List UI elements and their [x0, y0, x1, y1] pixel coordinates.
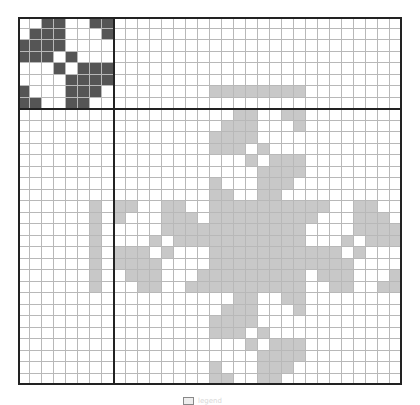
matrix-cell — [30, 305, 42, 317]
matrix-cell — [150, 374, 162, 386]
matrix-cell — [210, 52, 222, 64]
matrix-cell — [330, 40, 342, 52]
matrix-cell — [126, 40, 138, 52]
matrix-cell — [162, 270, 174, 282]
matrix-cell — [330, 167, 342, 179]
matrix-cell — [282, 305, 294, 317]
matrix-cell-light — [90, 213, 102, 225]
matrix-cell-light — [258, 236, 270, 248]
matrix-cell — [78, 109, 90, 121]
matrix-cell — [54, 213, 66, 225]
matrix-cell — [366, 29, 378, 41]
matrix-cell-light — [114, 247, 126, 259]
matrix-cell-light — [294, 282, 306, 294]
matrix-cell-light — [234, 213, 246, 225]
matrix-cell — [114, 109, 126, 121]
matrix-cell-light — [114, 201, 126, 213]
matrix-cell — [318, 155, 330, 167]
matrix-cell — [318, 17, 330, 29]
matrix-cell — [114, 144, 126, 156]
matrix-cell — [18, 224, 30, 236]
matrix-cell — [66, 316, 78, 328]
matrix-cell — [150, 40, 162, 52]
matrix-cell — [306, 52, 318, 64]
matrix-cell — [198, 75, 210, 87]
matrix-cell — [54, 190, 66, 202]
matrix-cell — [78, 178, 90, 190]
matrix-cell — [174, 155, 186, 167]
matrix-cell-light — [270, 178, 282, 190]
matrix-cell — [174, 86, 186, 98]
matrix-cell — [354, 362, 366, 374]
matrix-cell — [54, 339, 66, 351]
matrix-cell — [378, 29, 390, 41]
matrix-cell — [318, 316, 330, 328]
matrix-cell — [378, 144, 390, 156]
matrix-cell — [162, 305, 174, 317]
matrix-cell-light — [366, 201, 378, 213]
matrix-cell — [318, 224, 330, 236]
matrix-cell — [198, 155, 210, 167]
matrix-cell — [390, 86, 402, 98]
matrix-cell — [366, 109, 378, 121]
matrix-cell — [30, 167, 42, 179]
matrix-cell — [258, 52, 270, 64]
matrix-cell — [306, 63, 318, 75]
matrix-cell — [390, 201, 402, 213]
matrix-cell — [354, 190, 366, 202]
matrix-cell — [174, 144, 186, 156]
matrix-cell — [198, 167, 210, 179]
matrix-cell — [198, 109, 210, 121]
matrix-cell — [318, 167, 330, 179]
matrix-cell — [186, 362, 198, 374]
matrix-cell — [54, 362, 66, 374]
matrix-cell — [366, 178, 378, 190]
matrix-cell — [354, 293, 366, 305]
matrix-cell-light — [258, 351, 270, 363]
matrix-cell — [78, 259, 90, 271]
matrix-cell — [54, 224, 66, 236]
matrix-cell — [270, 328, 282, 340]
matrix-cell-light — [162, 224, 174, 236]
matrix-cell-dark — [18, 52, 30, 64]
matrix-cell — [42, 293, 54, 305]
matrix-cell — [354, 316, 366, 328]
matrix-cell — [270, 52, 282, 64]
matrix-cell-dark — [90, 86, 102, 98]
matrix-cell — [42, 328, 54, 340]
matrix-cell — [378, 362, 390, 374]
matrix-cell — [246, 178, 258, 190]
matrix-cell — [366, 305, 378, 317]
matrix-cell — [342, 339, 354, 351]
matrix-cell-light — [318, 201, 330, 213]
matrix-cell-light — [234, 132, 246, 144]
matrix-cell — [66, 236, 78, 248]
matrix-cell — [66, 29, 78, 41]
matrix-cell — [306, 224, 318, 236]
matrix-cell — [258, 132, 270, 144]
matrix-cell — [222, 75, 234, 87]
matrix-cell — [18, 374, 30, 386]
matrix-cell-light — [342, 236, 354, 248]
matrix-cell — [66, 121, 78, 133]
matrix-cell — [198, 247, 210, 259]
matrix-cell — [90, 374, 102, 386]
matrix-cell — [198, 328, 210, 340]
matrix-cell — [186, 247, 198, 259]
matrix-cell — [318, 132, 330, 144]
matrix-cell — [78, 282, 90, 294]
matrix-cell — [42, 132, 54, 144]
matrix-cell-dark — [42, 40, 54, 52]
matrix-cell — [126, 132, 138, 144]
matrix-cell — [390, 17, 402, 29]
matrix-cell — [306, 29, 318, 41]
matrix-cell — [186, 328, 198, 340]
matrix-cell — [258, 17, 270, 29]
matrix-cell-light — [294, 109, 306, 121]
matrix-cell — [330, 121, 342, 133]
matrix-cell — [174, 109, 186, 121]
matrix-cell — [390, 121, 402, 133]
matrix-cell — [126, 29, 138, 41]
matrix-cell — [390, 328, 402, 340]
matrix-cell — [258, 63, 270, 75]
